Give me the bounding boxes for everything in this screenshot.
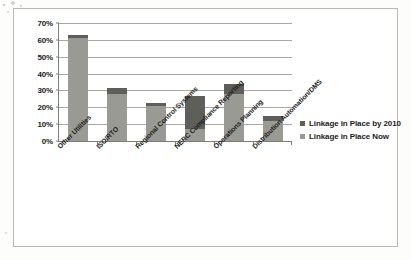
legend-label: Linkage in Place by 2010 [309, 119, 401, 128]
y-axis-tick-mark [56, 124, 59, 125]
chart-frame: 70%60%50%40%30%20%10%0% Other UtilitiesI… [13, 8, 398, 247]
y-axis-tick-mark [56, 90, 59, 91]
y-axis-tick-label: 60% [38, 35, 53, 44]
y-axis-tick-mark [56, 141, 59, 142]
y-axis-tick-label: 30% [38, 86, 53, 95]
bar-segment-linkage-2010[interactable] [107, 88, 127, 94]
y-axis-tick-mark [56, 23, 59, 24]
y-axis-tick-label: 20% [38, 103, 53, 112]
x-axis-labels: Other UtilitiesISO/RTORegional Control S… [58, 143, 318, 223]
bar-series-container [58, 23, 292, 141]
y-axis-tick-mark [56, 39, 59, 40]
y-axis-tick-label: 70% [38, 19, 53, 28]
chart-legend: Linkage in Place by 2010Linkage in Place… [300, 119, 401, 145]
y-axis-tick-mark [56, 56, 59, 57]
bar-segment-linkage-2010[interactable] [146, 103, 166, 106]
y-axis-tick-mark [56, 107, 59, 108]
legend-swatch-icon [300, 121, 305, 126]
legend-item[interactable]: Linkage in Place Now [300, 132, 401, 141]
legend-swatch-icon [300, 134, 305, 139]
y-axis-tick-label: 10% [38, 120, 53, 129]
bar-segment-linkage-2010[interactable] [68, 35, 88, 38]
y-axis-tick-label: 50% [38, 52, 53, 61]
y-axis-tick-label: 0% [42, 137, 53, 146]
y-axis-tick-label: 40% [38, 69, 53, 78]
plot-area [58, 23, 292, 141]
y-axis-labels: 70%60%50%40%30%20%10%0% [28, 23, 56, 141]
legend-item[interactable]: Linkage in Place by 2010 [300, 119, 401, 128]
y-axis-tick-mark [56, 73, 59, 74]
legend-label: Linkage in Place Now [309, 132, 389, 141]
